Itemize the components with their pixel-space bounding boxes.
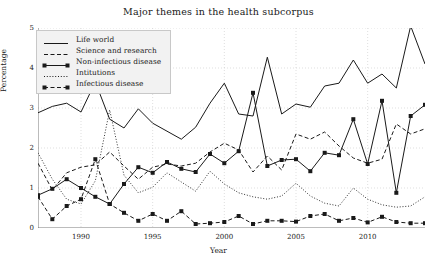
data-point	[265, 164, 269, 168]
data-point	[337, 219, 341, 223]
legend-item-science-and-research[interactable]: Science and research	[41, 45, 166, 56]
y-tick-label: 1	[20, 184, 34, 192]
data-point	[165, 219, 169, 223]
data-point	[179, 209, 183, 213]
data-point	[38, 195, 40, 199]
legend-item-label: Science and research	[71, 46, 157, 55]
x-tick-label: 2000	[209, 233, 239, 241]
data-point	[151, 212, 155, 216]
data-point	[380, 99, 384, 103]
series-line	[38, 93, 425, 204]
data-point	[366, 220, 370, 224]
legend-item-label: Infectious disease	[71, 79, 143, 88]
data-point	[136, 165, 140, 169]
data-point	[179, 167, 183, 171]
data-point	[208, 221, 212, 225]
y-tick-label: 3	[20, 104, 34, 112]
data-point	[409, 221, 413, 225]
legend-key-icon	[41, 45, 71, 56]
legend-item-label: Life world	[71, 35, 114, 44]
series-infectious-disease	[38, 157, 425, 226]
data-point	[79, 197, 83, 201]
legend-key-icon	[41, 78, 71, 89]
legend-item-infectious-disease[interactable]: Infectious disease	[41, 78, 166, 89]
data-point	[93, 157, 97, 161]
data-point	[409, 114, 413, 118]
data-point	[251, 222, 255, 226]
x-tick-label: 1990	[66, 233, 96, 241]
data-point	[351, 216, 355, 220]
y-tick-label: 4	[20, 64, 34, 72]
data-point	[308, 214, 312, 218]
series-line	[38, 159, 425, 224]
data-point	[394, 220, 398, 224]
x-axis-label: Year	[0, 246, 437, 255]
data-point	[294, 220, 298, 224]
data-point	[237, 214, 241, 218]
legend-item-label: Intitutions	[71, 68, 115, 77]
data-point	[265, 219, 269, 223]
legend-item-non-infectious-disease[interactable]: Non-infectious disease	[41, 56, 166, 67]
x-tick-label: 2010	[353, 233, 383, 241]
y-axis-label: Percentage	[0, 49, 8, 92]
data-point	[165, 160, 169, 164]
data-point	[50, 217, 54, 221]
figure: Major themes in the health subcorpus Per…	[0, 0, 437, 274]
data-point	[79, 186, 83, 190]
legend-item-life-world[interactable]: Life world	[41, 34, 166, 45]
data-point	[280, 219, 284, 223]
data-point	[394, 191, 398, 195]
data-point	[50, 187, 54, 191]
y-tick-label: 0	[20, 224, 34, 232]
data-point	[194, 222, 198, 226]
data-point	[294, 157, 298, 161]
legend-key-icon	[41, 56, 71, 67]
legend-item-intitutions[interactable]: Intitutions	[41, 67, 166, 78]
data-point	[380, 215, 384, 219]
data-point	[280, 158, 284, 162]
data-point	[122, 211, 126, 215]
y-tick-label: 2	[20, 144, 34, 152]
data-point	[237, 149, 241, 153]
chart-legend: Life worldScience and researchNon-infect…	[36, 30, 171, 94]
legend-item-label: Non-infectious disease	[71, 57, 161, 66]
data-point	[136, 219, 140, 223]
x-tick-label: 1995	[138, 233, 168, 241]
data-point	[423, 221, 425, 225]
data-point	[351, 117, 355, 121]
data-point	[65, 204, 69, 208]
data-point	[323, 212, 327, 216]
data-point	[337, 153, 341, 157]
legend-key-icon	[41, 34, 71, 45]
data-point	[222, 161, 226, 165]
y-tick-label: 5	[20, 24, 34, 32]
data-point	[93, 195, 97, 199]
data-point	[251, 91, 255, 95]
data-point	[65, 177, 69, 181]
x-tick-label: 2005	[281, 233, 311, 241]
data-point	[108, 202, 112, 206]
data-point	[208, 152, 212, 156]
data-point	[308, 169, 312, 173]
data-point	[222, 220, 226, 224]
data-point	[122, 182, 126, 186]
legend-key-icon	[41, 67, 71, 78]
chart-title: Major themes in the health subcorpus	[0, 6, 437, 17]
data-point	[423, 103, 425, 107]
data-point	[194, 170, 198, 174]
data-point	[151, 171, 155, 175]
data-point	[323, 151, 327, 155]
data-point	[366, 162, 370, 166]
